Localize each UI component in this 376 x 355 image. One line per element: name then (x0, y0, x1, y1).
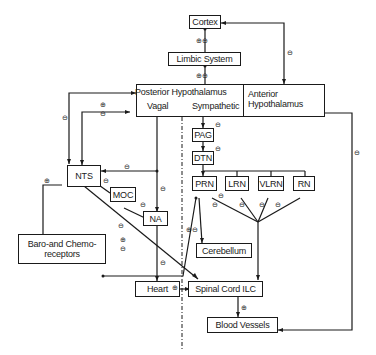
sign-symp-pag: ⊖ (215, 121, 221, 128)
sign-lrn-fan: ⊖ (239, 201, 245, 208)
sign-hypo-nts: ⊖ (62, 114, 68, 121)
node-na: NA (143, 211, 168, 226)
baro-label-line1: Baro-and Chemo- (28, 239, 97, 249)
node-moc: MOC (110, 187, 136, 202)
node-dtn: DTN (192, 151, 214, 165)
sign-heart-spinal: ⊕ (172, 284, 178, 291)
node-prn: PRN (192, 176, 217, 191)
sign-baro-prn-minus: ⊖ (120, 245, 126, 252)
sign-nts-moc: ⊖ (103, 177, 109, 184)
anterior-label: Anterior (248, 89, 278, 99)
node-rn: RN (293, 176, 315, 191)
sign-vagal-nts-plus: ⊕ (100, 101, 106, 108)
posterior-hypothalamus-label: Posterior Hypothalamus (135, 87, 227, 97)
sign-vagal-na: ⊖ (160, 185, 166, 192)
node-nts: NTS (67, 165, 101, 187)
node-limbic-system: Limbic System (168, 52, 241, 66)
baro-label-line2: receptors (44, 249, 80, 259)
sign-limbic-hypo: ⊕⊖ (196, 72, 208, 79)
vagal-label: Vagal (147, 101, 168, 111)
sign-moc-na: ⊖ (140, 201, 146, 208)
node-pag: PAG (192, 128, 214, 142)
node-cerebellum: Cerebellum (196, 243, 252, 258)
sign-vlrn-fan: ⊖ (259, 201, 265, 208)
node-baro-chemoreceptors: Baro-and Chemo- receptors (18, 234, 106, 264)
sign-anterior-blood: ⊖ (354, 149, 360, 156)
sign-vagal-nts-minus: ⊖ (100, 110, 106, 117)
node-spinal-cord-ilc: Spinal Cord ILC (188, 281, 263, 297)
sign-prn-fan-2: ⊖ (212, 201, 218, 208)
sign-na-heart: ⊖ (160, 259, 166, 266)
sign-baro-prn-plus: ⊕ (120, 236, 126, 243)
sign-baro-nts: ⊕ (44, 177, 50, 184)
node-vlrn: VLRN (258, 176, 284, 191)
sign-prn-cerebellum: ⊕⊖ (186, 226, 198, 233)
sign-prn-fan: ⊖ (218, 192, 224, 199)
sign-spinal-blood: ⊕ (241, 304, 247, 311)
node-cortex: Cortex (189, 15, 221, 29)
sympathetic-label: Sympathetic (192, 101, 239, 111)
sign-rn-fan: ⊖ (275, 201, 281, 208)
sign-nts-spinal: ⊖ (118, 222, 124, 229)
sign-na-nts: ⊖ (124, 163, 130, 170)
hypothalamus-label: Hypothalamus (248, 99, 303, 109)
sign-cortex-anterior: ⊖ (287, 49, 293, 56)
node-lrn: LRN (225, 176, 249, 191)
node-blood-vessels: Blood Vessels (207, 317, 278, 333)
sign-cortex-limbic: ⊕⊖ (196, 37, 208, 44)
sign-pag-dtn: ⊖ (215, 145, 221, 152)
